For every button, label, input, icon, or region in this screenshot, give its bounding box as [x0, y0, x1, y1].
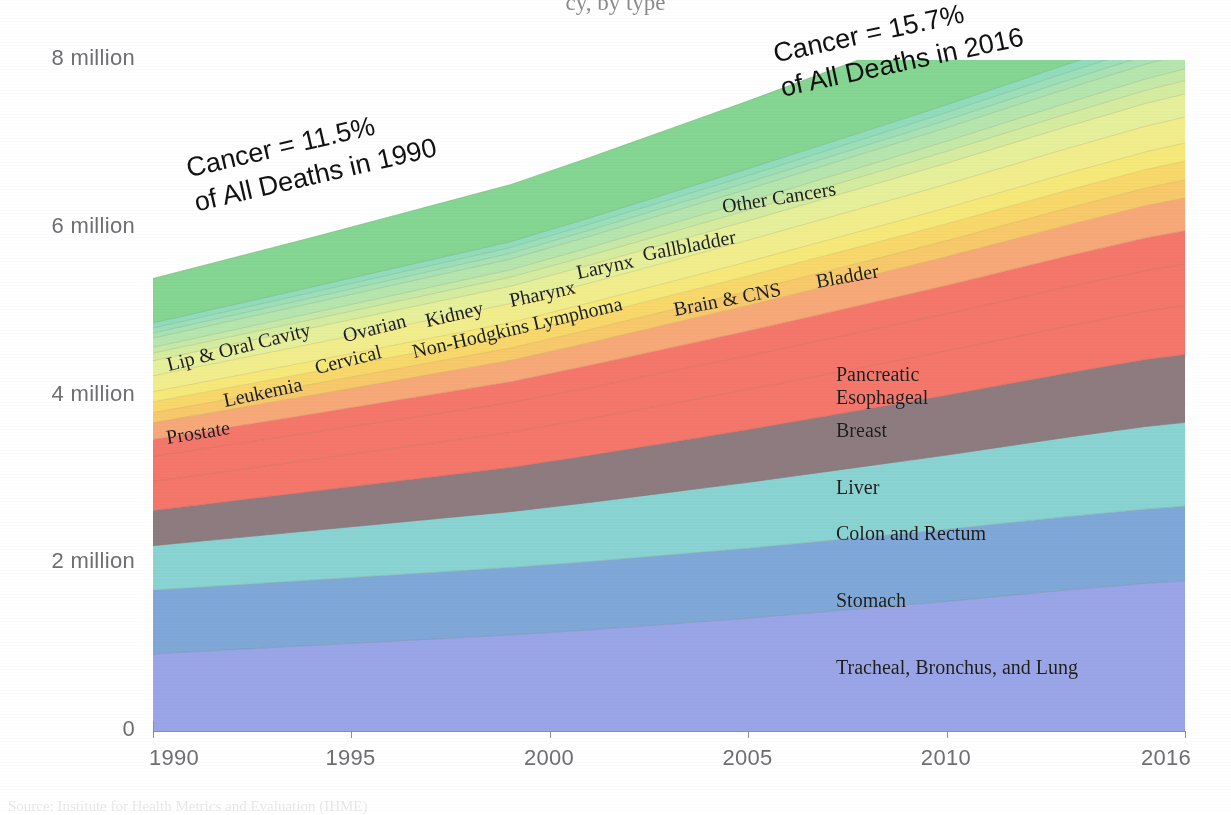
x-tick-mark: [947, 731, 948, 738]
series-label: Stomach: [836, 589, 906, 612]
x-tick-label: 2005: [722, 745, 772, 771]
y-tick-label: 0: [122, 716, 135, 742]
x-tick-mark: [748, 731, 749, 738]
x-tick-label: 1990: [149, 745, 199, 771]
x-tick-mark: [550, 731, 551, 738]
x-tick-label: 2016: [1141, 745, 1191, 771]
series-label: Colon and Rectum: [836, 522, 986, 545]
series-label: Pancreatic: [836, 363, 919, 386]
x-tick-label: 2010: [921, 745, 971, 771]
x-tick-mark: [153, 731, 154, 738]
y-tick-label: 6 million: [52, 213, 135, 239]
y-axis-line: [153, 721, 154, 731]
x-tick-mark: [351, 731, 352, 738]
x-tick-label: 1995: [325, 745, 375, 771]
series-label: Esophageal: [836, 386, 928, 409]
series-label: Tracheal, Bronchus, and Lung: [836, 656, 1078, 679]
y-tick-label: 2 million: [52, 548, 135, 574]
series-label: Breast: [836, 419, 887, 442]
y-tick-label: 8 million: [52, 45, 135, 71]
source-note: Source: Institute for Health Metrics and…: [8, 798, 367, 815]
x-tick-mark: [1185, 731, 1186, 738]
x-tick-label: 2000: [524, 745, 574, 771]
figure-partial-title: cy, by type: [0, 0, 1231, 16]
x-axis-line: [153, 731, 1185, 732]
series-label: Liver: [836, 476, 879, 499]
y-tick-label: 4 million: [52, 381, 135, 407]
